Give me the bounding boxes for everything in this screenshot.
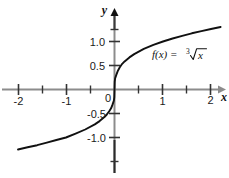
function-label: f(x) = 3 x (152, 47, 207, 62)
y-tick-label-neg1-0: -1.0 (87, 132, 106, 144)
x-tick-label-1: 1 (159, 95, 165, 107)
y-tick-label-0-5: 0.5 (90, 60, 105, 72)
radical-index: 3 (186, 47, 190, 56)
function-label-text: f(x) = (152, 48, 177, 61)
y-tick-label-neg0-5: -0.5 (87, 108, 106, 120)
function-curve (18, 27, 221, 150)
y-tick-label-1-0: 1.0 (90, 36, 105, 48)
y-axis-arrow-icon (111, 8, 119, 16)
x-tick-label-2: 2 (207, 94, 213, 106)
x-tick-label-zero: 0 (105, 92, 111, 104)
radicand: x (197, 49, 203, 61)
plot-area: -2 -1 0 1 2 1.0 0.5 -0.5 -1.0 y x f(x) =… (0, 0, 229, 178)
cube-root-function-graph: -2 -1 0 1 2 1.0 0.5 -0.5 -1.0 y x f(x) =… (0, 0, 229, 178)
y-axis-label: y (100, 3, 108, 17)
x-tick-label-neg1: -1 (62, 95, 72, 107)
x-tick-label-neg2: -2 (14, 95, 24, 107)
x-axis-label: x (220, 90, 227, 104)
